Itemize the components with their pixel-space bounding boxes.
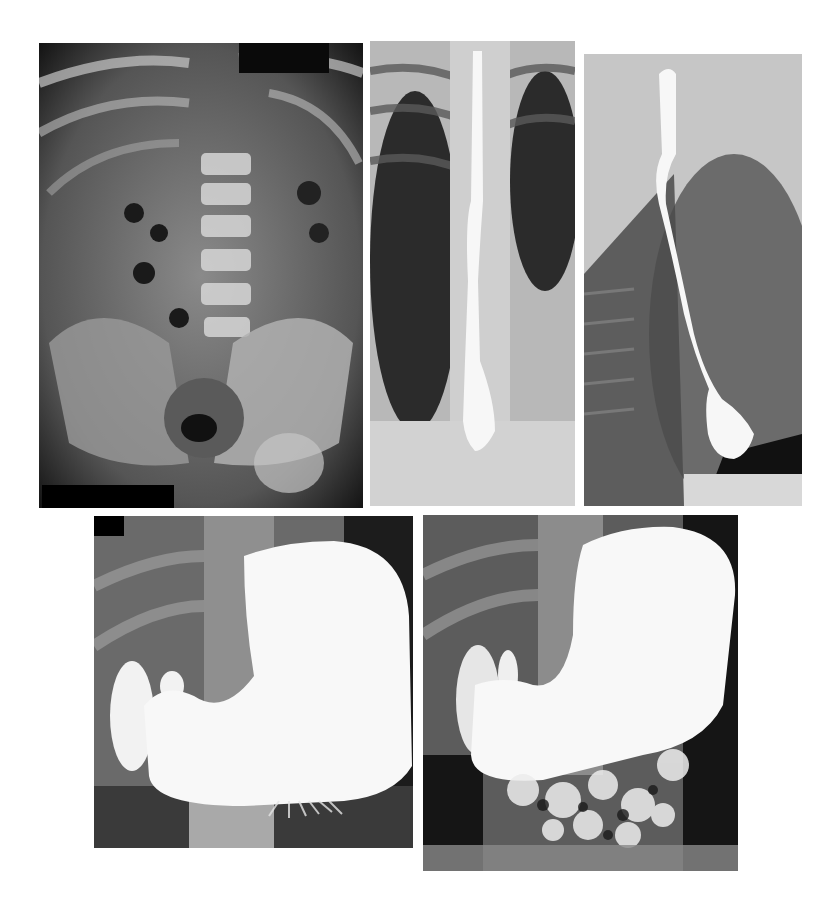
redaction-bar xyxy=(42,485,174,508)
redaction-corner xyxy=(94,516,124,536)
upper-gi-early-image xyxy=(94,516,413,848)
upper-gi-later-image xyxy=(423,515,738,871)
panel-a-abdominal-radiograph xyxy=(39,43,363,508)
panel-c-esophagram-lateral xyxy=(584,54,802,506)
panel-d-upper-gi-early xyxy=(94,516,413,848)
panel-e-upper-gi-later xyxy=(423,515,738,871)
esophagram-frontal-image xyxy=(370,41,575,506)
abdominal-xray-image xyxy=(39,43,363,508)
esophagram-lateral-image xyxy=(584,54,802,506)
panel-b-esophagram-frontal xyxy=(370,41,575,506)
